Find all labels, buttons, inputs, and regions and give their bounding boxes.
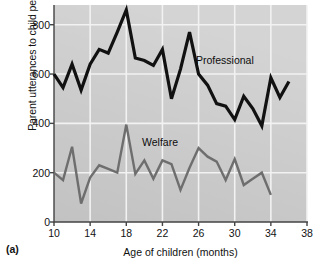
- x-tick-label: 22: [149, 227, 175, 239]
- series-annotation-welfare: Welfare: [142, 136, 178, 148]
- x-tick-label: 34: [258, 227, 284, 239]
- panel-label: (a): [6, 243, 19, 255]
- x-axis-title: Age of children (months): [54, 246, 307, 258]
- x-tick-label: 26: [186, 227, 212, 239]
- x-tick-label: 18: [113, 227, 139, 239]
- y-tick-label: 600: [20, 69, 50, 79]
- x-tick-label: 10: [41, 227, 67, 239]
- figure-panel-a: Parent utterances to child per hour 0200…: [0, 0, 313, 270]
- x-tick-label: 14: [77, 227, 103, 239]
- series-annotation-professional: Professional: [196, 54, 254, 66]
- y-tick-label: 400: [20, 118, 50, 128]
- y-tick-label: 0: [20, 217, 50, 227]
- y-tick-label: 200: [20, 168, 50, 178]
- x-tick-label: 38: [294, 227, 313, 239]
- x-axis-tick-labels: 1014182226303438: [0, 227, 313, 243]
- y-tick-label: 800: [20, 20, 50, 30]
- x-tick-label: 30: [222, 227, 248, 239]
